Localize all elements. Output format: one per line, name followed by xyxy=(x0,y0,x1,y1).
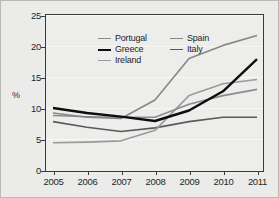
x-axis-tick-label: 2011 xyxy=(238,176,278,187)
x-axis-tick-mark xyxy=(88,171,90,175)
legend-entry-portugal: Portugal xyxy=(98,33,170,44)
legend-entry-greece: Greece xyxy=(98,44,170,55)
legend-swatch-spain xyxy=(170,38,183,39)
y-axis-tick-label: 0 xyxy=(11,165,41,176)
chart-figure: % 0510152025 PortugalGreeceIreland Spain… xyxy=(0,0,279,198)
legend-label-italy: Italy xyxy=(187,44,203,55)
legend-swatch-ireland xyxy=(98,60,111,61)
x-axis-tick-mark xyxy=(224,171,226,175)
legend-swatch-greece xyxy=(98,49,111,51)
y-axis-tick-label: 25 xyxy=(11,10,41,21)
series-line-greece xyxy=(53,59,257,121)
legend-entry-italy: Italy xyxy=(170,44,230,55)
x-axis-tick-mark xyxy=(122,171,124,175)
legend-label-ireland: Ireland xyxy=(115,55,141,66)
plot-area: PortugalGreeceIreland SpainItaly xyxy=(45,14,264,172)
legend-label-portugal: Portugal xyxy=(115,33,147,44)
legend-entry-spain: Spain xyxy=(170,33,230,44)
legend-column-1: PortugalGreeceIreland xyxy=(98,33,170,66)
legend-label-spain: Spain xyxy=(187,33,209,44)
y-axis-tick-label: 15 xyxy=(11,72,41,83)
y-axis-tick-label: 5 xyxy=(11,134,41,145)
legend-column-2: SpainItaly xyxy=(170,33,230,66)
legend-entry-ireland: Ireland xyxy=(98,55,170,66)
y-axis-tick-label: 20 xyxy=(11,41,41,52)
x-axis-tick-mark xyxy=(258,171,260,175)
x-axis-tick-mark xyxy=(190,171,192,175)
legend-swatch-italy xyxy=(170,49,183,50)
chart-legend: PortugalGreeceIreland SpainItaly xyxy=(98,33,230,66)
y-axis-tick-label: 10 xyxy=(11,103,41,114)
x-axis-tick-mark xyxy=(156,171,158,175)
legend-swatch-portugal xyxy=(98,38,111,39)
legend-label-greece: Greece xyxy=(115,44,143,55)
y-axis-unit-label: % xyxy=(12,90,20,100)
x-axis-tick-mark xyxy=(54,171,56,175)
